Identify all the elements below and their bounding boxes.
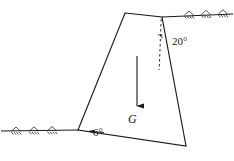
diagram-canvas [0,0,234,161]
weight-label-G: G [128,113,137,125]
angle-label-20deg: 20° [172,36,187,47]
angle-label-6deg: 6° [93,127,103,138]
vertical-reference-dashed-line [159,19,161,70]
engineering-diagram-figure: 20° 6° G [0,0,234,161]
angle-tick-mark [158,35,162,39]
